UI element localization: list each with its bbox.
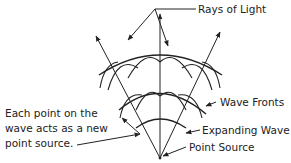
leader-expanding-wave: [186, 130, 200, 133]
label-expanding-wave: Expanding Wave: [202, 124, 290, 136]
leader-point-source: [163, 147, 186, 156]
leader-wave-fronts: [206, 102, 216, 106]
leader-rays-left: [128, 9, 196, 40]
label-huygens-line3: point source.: [5, 137, 73, 149]
label-huygens-line2: wave acts as a new: [5, 122, 108, 134]
label-wave-fronts: Wave Fronts: [220, 96, 284, 108]
label-point-source: Point Source: [189, 141, 254, 153]
leader-rays-right: [155, 9, 168, 46]
huygens-diagram: Rays of Light Wave Fronts Expanding Wave…: [0, 0, 291, 163]
point-source-dot: [159, 157, 162, 160]
light-rays: [96, 14, 220, 158]
label-huygens-line1: Each point on the: [5, 107, 98, 119]
label-rays-of-light: Rays of Light: [198, 3, 266, 15]
leader-huygens-lower: [77, 134, 140, 145]
leader-huygens-upper: [122, 118, 140, 134]
